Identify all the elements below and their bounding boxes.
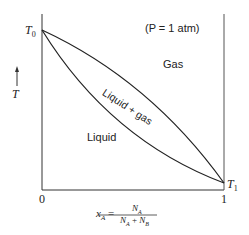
t0-label: T0 [25,23,36,39]
t1-label: T1 [227,177,238,193]
x-axis-label-lhs: xA = [96,207,114,222]
y-axis-label: T [12,87,19,102]
pressure-label: (P = 1 atm) [145,22,200,34]
x-axis-label-numerator: NA [132,203,142,215]
region-liquid: Liquid [87,131,116,143]
x-tick-1: 1 [221,192,227,207]
x-axis-label-denominator: NA + NB [120,215,149,227]
arrow-head-icon [15,66,19,72]
region-gas: Gas [163,58,183,70]
phase-diagram-plot [0,0,249,235]
x-tick-0: 0 [39,192,45,207]
